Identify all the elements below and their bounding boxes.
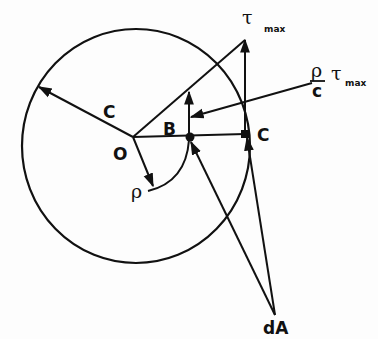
stress-max-subscript: max xyxy=(345,78,366,88)
point-b-dot xyxy=(186,133,195,142)
fraction-denominator: c xyxy=(312,81,322,101)
radius-label: C xyxy=(103,102,115,122)
rho-label: ρ xyxy=(131,180,142,202)
center-label: O xyxy=(113,144,127,164)
rho-arrow xyxy=(133,137,153,186)
torsion-diagram: C O B C ρ τ max ρ c τ max dA xyxy=(0,0,378,339)
point-c-dot xyxy=(241,130,249,138)
label-pointer-arrow xyxy=(191,83,312,117)
point-c-label: C xyxy=(257,125,269,145)
da-pointer-b xyxy=(191,142,275,315)
radius-arrow xyxy=(39,87,133,137)
rho-arc xyxy=(148,140,189,191)
point-b-label: B xyxy=(163,119,176,139)
tau-max-subscript: max xyxy=(264,24,285,34)
diagram-svg: C O B C ρ τ max ρ c τ max dA xyxy=(0,0,378,339)
tau-max-symbol: τ xyxy=(242,6,253,28)
stress-tau-symbol: τ xyxy=(331,62,342,84)
fraction-numerator: ρ xyxy=(311,59,322,81)
area-label: dA xyxy=(263,318,289,338)
